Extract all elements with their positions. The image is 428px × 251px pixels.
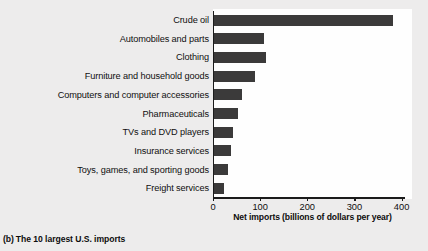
bars-container	[214, 9, 412, 199]
bar	[214, 15, 393, 26]
category-label: Insurance services	[0, 146, 209, 156]
bar	[214, 108, 238, 119]
bar	[214, 33, 264, 44]
category-label: Clothing	[0, 52, 209, 62]
bar	[214, 71, 255, 82]
bar	[214, 127, 233, 138]
category-label: Computers and computer accessories	[0, 90, 209, 100]
category-label: Crude oil	[0, 15, 209, 25]
x-axis-tick	[402, 197, 403, 201]
category-label: Pharmaceuticals	[0, 109, 209, 119]
x-axis-line	[213, 197, 405, 199]
caption-text: The 10 largest U.S. imports	[16, 234, 125, 244]
bar	[214, 164, 228, 175]
category-label: Toys, games, and sporting goods	[0, 165, 209, 175]
category-label: Freight services	[0, 183, 209, 193]
category-label: Automobiles and parts	[0, 34, 209, 44]
bar-chart: Crude oilAutomobiles and partsClothingFu…	[0, 0, 428, 228]
x-axis-tick	[354, 197, 355, 201]
bar	[214, 89, 242, 100]
x-axis-tick	[260, 197, 261, 201]
bar	[214, 183, 224, 194]
bar	[214, 52, 266, 63]
bar	[214, 145, 231, 156]
figure-caption: (b)The 10 largest U.S. imports	[3, 234, 125, 244]
figure-panel: Crude oilAutomobiles and partsClothingFu…	[0, 0, 428, 251]
category-axis-labels: Crude oilAutomobiles and partsClothingFu…	[0, 9, 209, 199]
category-label: TVs and DVD players	[0, 127, 209, 137]
x-axis-tick	[213, 197, 214, 201]
x-axis-title: Net imports (billions of dollars per yea…	[213, 212, 412, 222]
caption-index: (b)	[3, 234, 14, 244]
x-axis-tick	[307, 197, 308, 201]
category-label: Furniture and household goods	[0, 71, 209, 81]
y-axis-line	[213, 11, 214, 198]
